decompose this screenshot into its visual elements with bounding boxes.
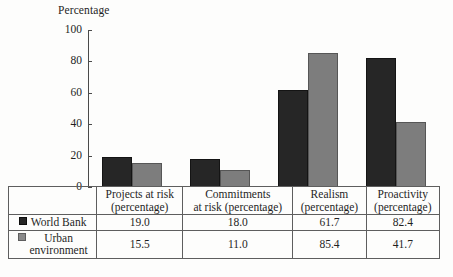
y-axis-title: Percentage bbox=[58, 4, 109, 16]
column-header-line2: (percentage) bbox=[301, 201, 358, 213]
column-header-line1: Realism bbox=[311, 188, 349, 200]
table-cell: 82.4 bbox=[366, 215, 439, 231]
gray-square-swatch-icon bbox=[18, 233, 26, 241]
table-cell: 19.0 bbox=[97, 215, 183, 231]
y-axis-tick-mark bbox=[88, 93, 92, 94]
column-header-line1: Commitments bbox=[205, 188, 270, 200]
legend-label: Urbanenvironment bbox=[30, 232, 88, 257]
y-axis-tick-label: 20 bbox=[48, 150, 82, 162]
legend-label-line2: environment bbox=[30, 244, 88, 256]
y-axis-tick-label: 80 bbox=[48, 55, 82, 67]
column-header: Proactivity (percentage) bbox=[366, 187, 439, 215]
y-axis-tick-label: 100 bbox=[48, 24, 82, 36]
figure-container: Percentage 100806040200 Projects at risk… bbox=[0, 0, 453, 277]
y-axis-tick-mark bbox=[88, 156, 92, 157]
table-cell: 41.7 bbox=[366, 230, 439, 258]
column-header: Commitments at risk (percentage) bbox=[183, 187, 293, 215]
table-header-row: Projects at risk (percentage) Commitment… bbox=[9, 187, 440, 215]
y-axis-tick-mark bbox=[88, 124, 92, 125]
bar bbox=[278, 90, 308, 187]
legend-header-cell bbox=[9, 187, 97, 215]
data-table: Projects at risk (percentage) Commitment… bbox=[8, 186, 440, 259]
legend-cell-urban-environment: Urbanenvironment bbox=[9, 230, 97, 258]
table-cell: 61.7 bbox=[293, 215, 366, 231]
column-header: Realism (percentage) bbox=[293, 187, 366, 215]
table-cell: 11.0 bbox=[183, 230, 293, 258]
bar bbox=[132, 163, 162, 187]
bar bbox=[396, 122, 426, 187]
y-axis-line bbox=[88, 30, 89, 187]
table-row: World Bank 19.0 18.0 61.7 82.4 bbox=[9, 215, 440, 231]
legend-label: World Bank bbox=[31, 216, 87, 229]
y-axis-tick-label: 60 bbox=[48, 87, 82, 99]
table-row: Urbanenvironment 15.5 11.0 85.4 41.7 bbox=[9, 230, 440, 258]
table-cell: 85.4 bbox=[293, 230, 366, 258]
bar bbox=[366, 58, 396, 187]
bar-chart: Percentage 100806040200 bbox=[0, 0, 453, 190]
column-header-line1: Proactivity bbox=[378, 188, 428, 200]
bar bbox=[190, 159, 220, 187]
bar bbox=[220, 170, 250, 187]
column-header-line2: (percentage) bbox=[374, 201, 431, 213]
column-header-line2: at risk (percentage) bbox=[193, 201, 282, 213]
legend-cell-world-bank: World Bank bbox=[9, 215, 97, 231]
column-header-line1: Projects at risk bbox=[106, 188, 174, 200]
y-axis-tick-mark bbox=[88, 30, 92, 31]
y-axis-tick-label: 40 bbox=[48, 118, 82, 130]
table-cell: 15.5 bbox=[97, 230, 183, 258]
y-axis-tick-mark bbox=[88, 61, 92, 62]
bar bbox=[308, 53, 338, 187]
dark-square-swatch-icon bbox=[19, 217, 27, 225]
column-header-line2: (percentage) bbox=[111, 201, 168, 213]
legend-label-line1: Urban bbox=[44, 232, 73, 244]
table-cell: 18.0 bbox=[183, 215, 293, 231]
bar bbox=[102, 157, 132, 187]
column-header: Projects at risk (percentage) bbox=[97, 187, 183, 215]
